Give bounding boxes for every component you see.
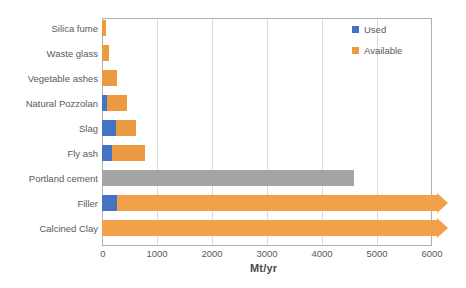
category-label-filler: Filler <box>0 199 98 209</box>
legend-item-available: Available <box>352 43 402 57</box>
bar-segment-available-overflow <box>102 220 437 236</box>
legend-label-used: Used <box>364 24 386 35</box>
x-tick-1000: 1000 <box>146 248 167 259</box>
x-tick-0: 0 <box>100 248 105 259</box>
x-tick-6000: 6000 <box>421 248 442 259</box>
x-tick-4000: 4000 <box>311 248 332 259</box>
category-label-natural-pozzolan: Natural Pozzolan <box>0 99 98 109</box>
category-label-calcined-clay: Calcined Clay <box>0 224 98 234</box>
category-label-vegetable-ashes: Vegetable ashes <box>0 74 98 84</box>
x-tick-2000: 2000 <box>201 248 222 259</box>
x-tick-3000: 3000 <box>256 248 277 259</box>
bar-segment-available <box>102 45 109 61</box>
legend: Used Available <box>352 22 402 64</box>
x-axis-title: Mt/yr <box>102 262 432 274</box>
bar-segment-used <box>102 195 117 211</box>
category-label-waste-glass: Waste glass <box>0 49 98 59</box>
bar-segment-available <box>107 95 127 111</box>
category-label-portland-cement: Portland cement <box>0 174 98 184</box>
legend-swatch-used-icon <box>352 26 359 33</box>
overflow-arrow-icon <box>437 218 448 238</box>
x-tick-5000: 5000 <box>366 248 387 259</box>
bar-segment-available <box>112 145 145 161</box>
overflow-arrow-icon <box>437 193 448 213</box>
bar-segment-portland-cement <box>102 170 354 186</box>
bar-segment-available <box>102 20 106 36</box>
bar-segment-used <box>102 145 112 161</box>
bar-segment-used <box>102 120 116 136</box>
legend-label-available: Available <box>364 45 402 56</box>
bar-segment-available-overflow <box>117 195 437 211</box>
legend-swatch-available-icon <box>352 47 359 54</box>
category-label-silica-fume: Silica fume <box>0 24 98 34</box>
bar-segment-available <box>116 120 136 136</box>
category-label-fly-ash: Fly ash <box>0 149 98 159</box>
category-label-slag: Slag <box>0 124 98 134</box>
category-axis: Silica fume Waste glass Vegetable ashes … <box>0 18 98 246</box>
bar-chart: Silica fume Waste glass Vegetable ashes … <box>0 0 466 288</box>
bar-segment-available <box>102 70 117 86</box>
legend-item-used: Used <box>352 22 402 36</box>
